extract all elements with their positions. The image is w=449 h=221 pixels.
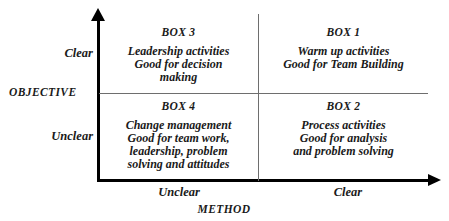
quadrant-box3: BOX 3 Leadership activitiesGood for deci… [100, 26, 257, 84]
quadrant-box2-body: Process activitiesGood for analysisand p… [259, 119, 428, 157]
x-axis-tick-clear: Clear [312, 185, 384, 200]
quadrant-body-line: solving and attitudes [100, 158, 257, 171]
quadrant-box2-title: BOX 2 [259, 100, 428, 112]
quadrant-box3-title: BOX 3 [100, 26, 257, 38]
x-axis-tick-unclear: Unclear [140, 185, 218, 200]
x-axis-line [97, 179, 433, 182]
quadrant-box4: BOX 4 Change managementGood for team wor… [100, 100, 257, 171]
quadrant-body-line: and problem solving [259, 145, 428, 158]
quadrant-box1: BOX 1 Warm up activitiesGood for Team Bu… [259, 26, 428, 71]
objective-method-matrix: OBJECTIVE METHOD Clear Unclear Unclear C… [0, 0, 449, 221]
quadrant-divider-horizontal [99, 93, 428, 94]
quadrant-body-line: leadership, problem [100, 145, 257, 158]
x-axis-arrow-right-icon [428, 174, 441, 186]
quadrant-box2: BOX 2 Process activitiesGood for analysi… [259, 100, 428, 158]
quadrant-box1-body: Warm up activitiesGood for Team Building [259, 45, 428, 71]
quadrant-body-line: Good for Team Building [259, 58, 428, 71]
quadrant-body-line: making [100, 71, 257, 84]
x-axis-title: METHOD [189, 203, 259, 215]
y-axis-title: OBJECTIVE [9, 86, 77, 98]
quadrant-box4-title: BOX 4 [100, 100, 257, 112]
y-axis-tick-unclear: Unclear [51, 129, 93, 144]
y-axis-arrow-up-icon [91, 8, 105, 21]
y-axis-tick-clear: Clear [65, 46, 93, 61]
quadrant-box1-title: BOX 1 [259, 26, 428, 38]
quadrant-box3-body: Leadership activitiesGood for decisionma… [100, 45, 257, 83]
quadrant-box4-body: Change managementGood for team work,lead… [100, 119, 257, 170]
